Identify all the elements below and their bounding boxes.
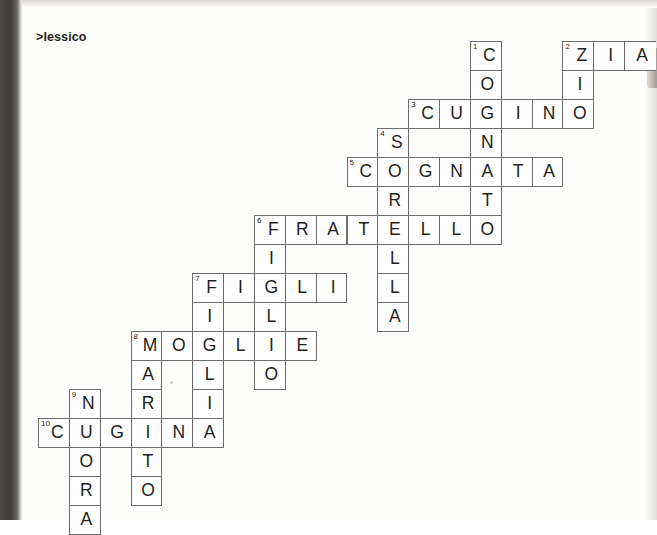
cell-letter: O — [70, 448, 100, 476]
cell-letter: G — [101, 419, 131, 447]
crossword-cell[interactable]: L — [377, 244, 409, 274]
cell-letter: L — [286, 274, 316, 302]
crossword-cell[interactable]: A — [377, 302, 409, 332]
crossword-cell[interactable]: E — [377, 215, 409, 245]
cell-letter: E — [286, 332, 316, 360]
cell-letter: O — [132, 477, 162, 505]
crossword-cell[interactable]: I — [192, 302, 224, 332]
crossword-cell[interactable]: N — [470, 128, 502, 158]
cell-letter: A — [317, 216, 347, 244]
crossword-cell[interactable]: G — [192, 331, 224, 361]
crossword-cell[interactable]: O — [69, 447, 101, 477]
crossword-cell[interactable]: I — [501, 99, 533, 129]
crossword-cell[interactable]: U — [69, 418, 101, 448]
crossword-cell[interactable]: L — [377, 273, 409, 303]
crossword-cell[interactable]: A — [131, 360, 163, 390]
crossword-cell[interactable]: N — [532, 99, 564, 129]
cell-letter: L — [378, 245, 408, 273]
crossword-cell[interactable]: 7F — [192, 273, 224, 303]
crossword-cell[interactable]: I — [192, 389, 224, 419]
cell-letter: T — [348, 216, 378, 244]
crossword-cell[interactable]: N — [161, 418, 193, 448]
crossword-cell[interactable]: 8M — [131, 331, 163, 361]
cell-letter: G — [193, 332, 223, 360]
crossword-cell[interactable]: 1C — [470, 41, 502, 71]
crossword-cell[interactable]: G — [254, 273, 286, 303]
cell-letter: I — [193, 303, 223, 331]
cell-letter: A — [193, 419, 223, 447]
crossword-cell[interactable]: L — [254, 302, 286, 332]
cell-letter: N — [440, 158, 470, 186]
cell-letter: O — [378, 158, 408, 186]
crossword-cell[interactable]: I — [316, 273, 348, 303]
crossword-cell[interactable]: O — [254, 360, 286, 390]
crossword-cell[interactable]: A — [470, 157, 502, 187]
crossword-cell[interactable]: A — [316, 215, 348, 245]
crossword-cell[interactable]: A — [624, 41, 656, 71]
cell-letter: L — [409, 216, 439, 244]
crossword-cell[interactable]: N — [439, 157, 471, 187]
crossword-cell[interactable]: G — [470, 99, 502, 129]
crossword-cell[interactable]: 2Z — [562, 41, 594, 71]
crossword-cell[interactable]: 6F — [254, 215, 286, 245]
cell-letter: T — [471, 187, 501, 215]
crossword-cell[interactable]: 4S — [377, 128, 409, 158]
crossword-cell[interactable]: A — [192, 418, 224, 448]
crossword-cell[interactable]: L — [439, 215, 471, 245]
cell-letter: O — [255, 361, 285, 389]
cell-letter: I — [502, 100, 532, 128]
crossword-cell[interactable]: E — [285, 331, 317, 361]
crossword-cell[interactable]: G — [408, 157, 440, 187]
crossword-cell[interactable]: I — [254, 331, 286, 361]
crossword-cell[interactable]: I — [131, 418, 163, 448]
crossword-cell[interactable]: T — [470, 186, 502, 216]
crossword-cell[interactable]: O — [470, 215, 502, 245]
cell-letter: U — [440, 100, 470, 128]
cell-letter: O — [563, 100, 593, 128]
crossword-cell[interactable]: R — [131, 389, 163, 419]
crossword-cell[interactable]: I — [254, 244, 286, 274]
crossword-cell[interactable]: L — [285, 273, 317, 303]
cell-letter: A — [533, 158, 563, 186]
cell-letter: A — [378, 303, 408, 331]
scan-speck — [170, 381, 173, 384]
cell-letter: C — [39, 419, 69, 447]
crossword-cell[interactable]: L — [408, 215, 440, 245]
cell-letter: L — [255, 303, 285, 331]
crossword-cell[interactable]: T — [131, 447, 163, 477]
cell-letter: C — [348, 158, 378, 186]
cell-letter: O — [471, 216, 501, 244]
cell-letter: M — [132, 332, 162, 360]
crossword-cell[interactable]: 10C — [38, 418, 70, 448]
crossword-cell[interactable]: L — [223, 331, 255, 361]
crossword-cell[interactable]: 3C — [408, 99, 440, 129]
crossword-cell[interactable]: I — [593, 41, 625, 71]
crossword-cell[interactable]: 9N — [69, 389, 101, 419]
crossword-cell[interactable]: T — [501, 157, 533, 187]
cell-letter: R — [286, 216, 316, 244]
cell-letter: C — [471, 42, 501, 70]
cell-letter: I — [193, 390, 223, 418]
crossword-cell[interactable]: T — [347, 215, 379, 245]
crossword-cell[interactable]: O — [470, 70, 502, 100]
crossword-cell[interactable]: G — [100, 418, 132, 448]
crossword-cell[interactable]: A — [532, 157, 564, 187]
crossword-cell[interactable]: 5C — [347, 157, 379, 187]
cell-letter: A — [625, 42, 656, 70]
crossword-cell[interactable]: O — [377, 157, 409, 187]
cell-letter: I — [563, 71, 593, 99]
crossword-cell[interactable]: R — [377, 186, 409, 216]
crossword-cell[interactable]: R — [285, 215, 317, 245]
cell-letter: R — [70, 477, 100, 505]
crossword-cell[interactable]: O — [131, 476, 163, 506]
cell-letter: F — [255, 216, 285, 244]
crossword-cell[interactable]: L — [192, 360, 224, 390]
crossword-cell[interactable]: U — [439, 99, 471, 129]
crossword-cell[interactable]: A — [69, 505, 101, 535]
crossword-cell[interactable]: O — [562, 99, 594, 129]
crossword-cell[interactable]: O — [161, 331, 193, 361]
crossword-cell[interactable]: I — [562, 70, 594, 100]
cell-letter: I — [132, 419, 162, 447]
crossword-cell[interactable]: I — [223, 273, 255, 303]
crossword-cell[interactable]: R — [69, 476, 101, 506]
